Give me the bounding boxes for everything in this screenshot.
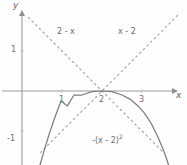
annotation-parabola-exponent: 2 <box>119 133 123 140</box>
y-axis <box>19 10 25 165</box>
annotation-parabola: -(x - 2)2 <box>92 133 123 145</box>
x-axis-label: x <box>176 90 181 100</box>
y-axis-label: y <box>13 0 18 10</box>
graph-figure: y x 1 -1 1 2 3 2 - x x - 2 -(x - 2)2 <box>0 0 187 165</box>
x-tick-label-3: 3 <box>139 95 144 104</box>
x-axis <box>2 88 178 94</box>
annotation-2-minus-x: 2 - x <box>57 27 75 36</box>
annotation-parabola-base: -(x - 2) <box>92 136 119 145</box>
annotation-x-minus-2: x - 2 <box>118 27 136 36</box>
y-axis-arrow <box>19 10 25 16</box>
x-tick-label-1: 1 <box>59 95 64 104</box>
x-tick-label-2: 2 <box>99 95 104 104</box>
y-tick-label-neg1: -1 <box>7 134 15 143</box>
y-tick-label-1: 1 <box>11 45 16 54</box>
